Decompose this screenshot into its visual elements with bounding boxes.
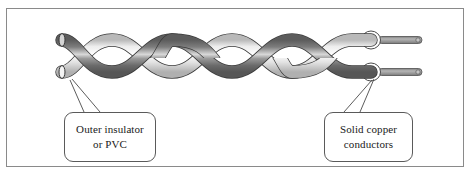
callout-left-line2: or PVC	[93, 138, 127, 150]
callout-solid-copper-conductors-text: Solid copper conductors	[336, 122, 401, 151]
figure-root: Outer insulator or PVC Solid copper cond…	[0, 0, 474, 176]
callout-left-line1: Outer insulator	[76, 123, 144, 135]
callout-right-line2: conductors	[344, 138, 393, 150]
callout-outer-insulator: Outer insulator or PVC	[64, 112, 156, 162]
callout-solid-copper-conductors: Solid copper conductors	[324, 112, 413, 162]
callout-right-line1: Solid copper	[340, 123, 397, 135]
caption-remnant	[0, 0, 474, 6]
callout-outer-insulator-text: Outer insulator or PVC	[72, 122, 148, 151]
